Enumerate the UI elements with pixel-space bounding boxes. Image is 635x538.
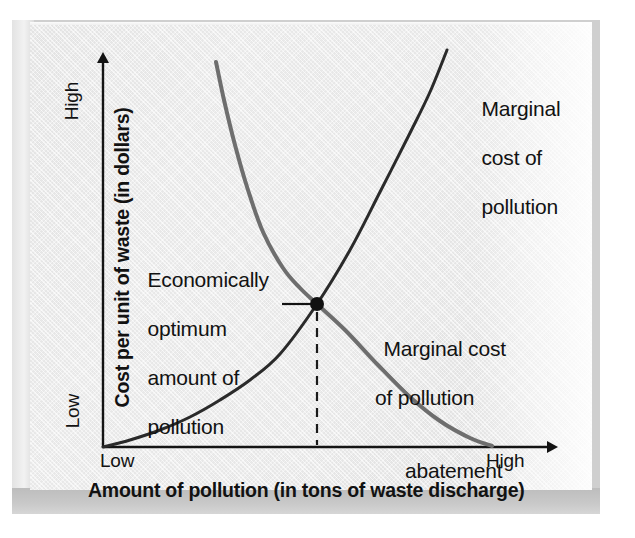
label-mc-pollution-line-3: pollution xyxy=(482,195,558,218)
y-axis-tick-low: Low xyxy=(62,368,84,454)
label-optimum-line-2: optimum xyxy=(148,317,227,340)
label-mc-abatement-line-3: abatement xyxy=(361,459,506,484)
label-mc-pollution-line-1: Marginal xyxy=(482,97,561,120)
label-mc-abatement-line-2: of pollution xyxy=(361,386,506,411)
label-optimum-line-3: amount of xyxy=(148,366,240,389)
label-optimum-line-4: pollution xyxy=(148,415,224,438)
label-mc-pollution-line-2: cost of xyxy=(482,146,542,169)
label-economically-optimum: Economically optimum amount of pollution xyxy=(125,243,269,464)
label-marginal-cost-abatement: Marginal cost of pollution abatement xyxy=(361,312,506,533)
label-optimum-line-1: Economically xyxy=(148,268,269,291)
equilibrium-point-marker xyxy=(310,297,324,311)
label-marginal-cost-pollution: Marginal cost of pollution xyxy=(459,72,560,244)
figure-root: Cost per unit of waste (in dollars) High… xyxy=(0,0,635,538)
y-axis-tick-high: High xyxy=(61,56,83,146)
label-mc-abatement-line-1: Marginal cost xyxy=(384,337,506,360)
